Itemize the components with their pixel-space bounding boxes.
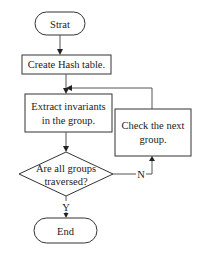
decision-node: Are all groups traversed? (19, 152, 113, 196)
arrowhead-icon (57, 49, 63, 55)
decision-label-line1: Are all groups (36, 163, 96, 174)
check-next-group-label-line2: group. (139, 134, 166, 145)
no-label: N (137, 169, 145, 180)
extract-invariants-label-line2: in the group. (42, 115, 95, 126)
arrowhead-icon (63, 146, 69, 152)
arrowhead-icon (149, 156, 155, 161)
end-label: End (57, 226, 75, 237)
flowchart: Strat Create Hash table. Extract invaria… (0, 0, 204, 258)
check-next-group-label-line1: Check the next (122, 120, 185, 131)
end-node: End (34, 218, 97, 243)
edge-decision-to-check: N (113, 156, 155, 180)
arrowhead-icon (64, 213, 69, 218)
start-node: Strat (35, 12, 85, 35)
create-hash-table-node: Create Hash table. (22, 55, 111, 74)
edge-start-to-create (57, 35, 63, 55)
decision-label-line2: traversed? (44, 176, 87, 187)
yes-label: Y (62, 202, 70, 213)
extract-invariants-label-line1: Extract invariants (31, 101, 105, 112)
check-next-group-node: Check the next group. (115, 109, 191, 156)
edge-decision-to-end: Y (62, 196, 70, 218)
extract-invariants-node: Extract invariants in the group. (25, 94, 112, 132)
create-hash-table-label: Create Hash table. (28, 59, 105, 70)
edge-extract-to-decision (63, 132, 69, 152)
start-label: Strat (50, 19, 70, 30)
edge-create-to-extract (63, 74, 69, 94)
